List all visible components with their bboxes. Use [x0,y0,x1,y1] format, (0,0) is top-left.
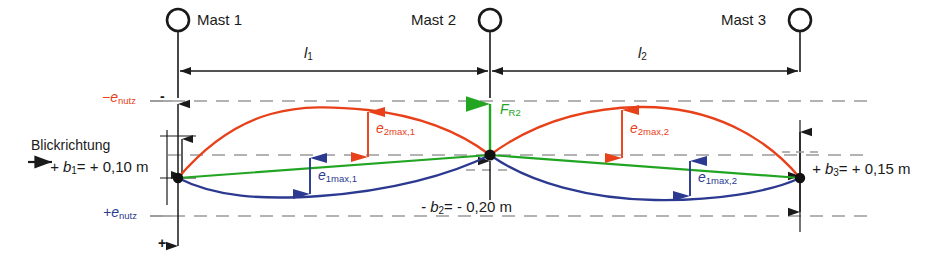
offset-label-b3: + b3= + 0,15 m [812,160,911,178]
b3-base: + b [812,160,833,177]
b1-base: + b [50,158,71,175]
minus-e-nutz-sign: − [102,89,110,105]
mast-3-symbol [789,9,811,72]
offset-label-b1: + b1= + 0,10 m [50,158,149,176]
deflection-label-e2max1: e2max,1 [376,120,415,137]
mast-1-symbol [167,9,189,98]
plus-e-nutz-base: e [111,204,119,220]
minus-e-nutz-sub: nutz [118,95,136,106]
span-l1-sub: 1 [307,51,313,62]
span-label-l2: l2 [638,44,647,62]
lower-curve-span-2 [490,155,800,200]
deflection-label-e1max1: e1max,1 [318,167,357,184]
e1max2-sub: 1max,2 [706,175,737,186]
e2max1-base: e [376,120,384,136]
force-label-FR2: FR2 [500,101,521,118]
diagram-canvas: Mast 1 Mast 2 Mast 3 l1 l2 −enutz +enutz… [0,0,945,266]
FR2-sub: R2 [509,107,521,118]
plus-e-nutz-sub: nutz [119,210,137,221]
e1max1-sub: 1max,1 [326,173,357,184]
mast-3-label: Mast 3 [721,11,766,28]
plus-e-nutz-sign: + [103,204,111,220]
FR2-base: F [500,101,509,117]
e1max1-base: e [318,167,326,183]
e2max2-base: e [630,120,638,136]
b2-base: - b [421,198,439,215]
attachment-node-mast1 [173,173,183,183]
span-label-l1: l1 [304,44,313,62]
diagram-svg [0,0,945,266]
label-minus-e-nutz: −enutz [102,89,136,106]
e1max2-base: e [698,169,706,185]
deflection-label-e1max2: e1max,2 [698,169,737,186]
axis-sign-bottom: + [158,235,166,251]
mast-2-symbol [479,9,501,98]
e2max2-sub: 2max,2 [638,126,669,137]
axis-sign-top: - [160,88,165,104]
attachment-node-mast2 [484,149,495,160]
e2max1-sub: 2max,1 [384,126,415,137]
b1-value: = + 0,10 m [77,158,149,175]
b2-value: = - 0,20 m [444,198,512,215]
mast-2-label: Mast 2 [411,11,456,28]
span-l2-sub: 2 [641,51,647,62]
offset-label-b2: - b2= - 0,20 m [421,198,512,216]
minus-e-nutz-base: e [110,89,118,105]
attachment-node-mast3 [795,173,805,183]
b3-value: = + 0,15 m [839,160,911,177]
mast-1-label: Mast 1 [197,11,242,28]
view-direction-label: Blickrichtung [31,137,110,153]
offset-dimension-b2 [466,161,514,200]
deflection-label-e2max2: e2max,2 [630,120,669,137]
label-plus-e-nutz: +enutz [103,204,137,221]
